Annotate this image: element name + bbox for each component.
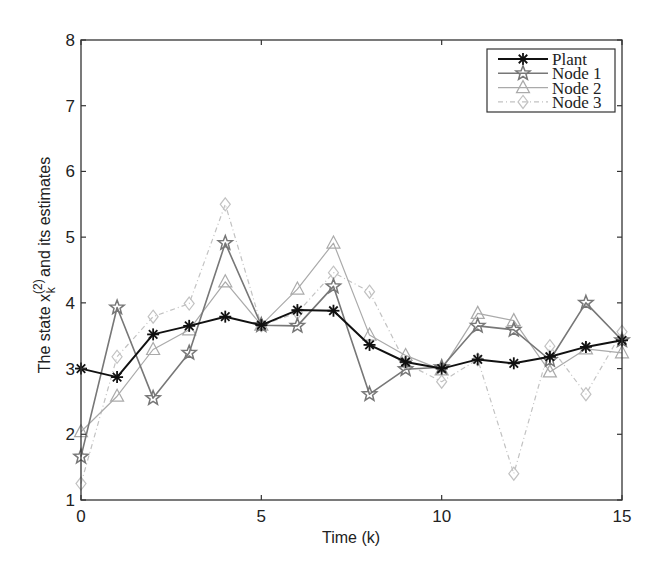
asterisk-marker-icon [147, 328, 159, 340]
y-tick-label: 3 [66, 360, 75, 379]
y-axis-label-prefix: The state x [36, 294, 53, 373]
x-tick-label: 15 [613, 507, 632, 526]
x-tick-label: 5 [257, 507, 266, 526]
y-tick-label: 5 [66, 228, 75, 247]
asterisk-marker-icon [111, 371, 123, 383]
y-tick-label: 8 [66, 31, 75, 50]
asterisk-marker-icon [517, 53, 529, 65]
y-axis-label-sub: k [44, 286, 58, 293]
y-tick-label: 4 [66, 294, 75, 313]
asterisk-marker-icon [508, 357, 520, 369]
y-tick-label: 7 [66, 97, 75, 116]
asterisk-marker-icon [544, 351, 556, 363]
asterisk-marker-icon [327, 305, 339, 317]
asterisk-marker-icon [183, 320, 195, 332]
asterisk-marker-icon [291, 304, 303, 316]
asterisk-marker-icon [400, 356, 412, 368]
y-tick-label: 1 [66, 491, 75, 510]
x-axis-label: Time (k) [322, 529, 380, 546]
asterisk-marker-icon [219, 311, 231, 323]
y-tick-label: 2 [66, 425, 75, 444]
asterisk-marker-icon [436, 363, 448, 375]
asterisk-marker-icon [580, 341, 592, 353]
y-tick-label: 6 [66, 162, 75, 181]
y-axis-label-suffix: and its estimates [36, 157, 53, 282]
x-tick-label: 10 [432, 507, 451, 526]
asterisk-marker-icon [472, 353, 484, 365]
asterisk-marker-icon [364, 339, 376, 351]
legend-label: Node 3 [552, 93, 602, 112]
asterisk-marker-icon [255, 319, 267, 331]
legend: PlantNode 1Node 2Node 3 [487, 49, 615, 112]
line-chart: 051015 12345678 Time (k) The state x(2)k… [0, 0, 660, 580]
x-tick-label: 0 [76, 507, 85, 526]
